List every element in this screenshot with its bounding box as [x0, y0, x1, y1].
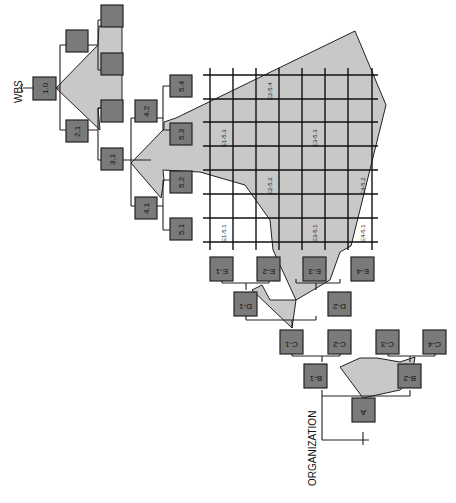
svg-text:5.1: 5.1 [177, 223, 186, 235]
svg-text:1.0: 1.0 [41, 82, 50, 94]
svg-text:D-1: D-1 [239, 302, 252, 311]
wbs-node-2-1[interactable]: 2.1 [66, 120, 88, 142]
svg-text:E-1: E-1 [215, 267, 228, 276]
org-node-e-2[interactable]: E-2 [257, 257, 280, 281]
svg-text:E-2: E-2 [262, 267, 275, 276]
svg-text:D-2: D-2 [333, 302, 346, 311]
wbs-organization-matrix-diagram: WBS 1.0 2.1 3.1 4.2 4.1 5.4 5.3 [0, 0, 456, 503]
wbs-node-5-4[interactable]: 5.4 [170, 75, 192, 97]
svg-text:2.1: 2.1 [73, 125, 82, 137]
svg-text:A: A [360, 408, 366, 417]
organization-label: ORGANIZATION [307, 411, 318, 486]
svg-text:5.4: 5.4 [177, 80, 186, 92]
org-node-b-1[interactable]: B-1 [304, 364, 327, 388]
wbs-node-5-2[interactable]: 5.2 [170, 171, 192, 193]
wbs-node-4-2[interactable]: 4.2 [135, 100, 157, 122]
matrix-cell-e2-5-2: E2-5.2 [267, 177, 273, 195]
wbs-node-2-2[interactable] [66, 30, 88, 52]
svg-text:4.2: 4.2 [142, 105, 151, 117]
matrix-cell-e2-5-4: E2-5.4 [267, 82, 273, 100]
svg-text:4.1: 4.1 [142, 202, 151, 214]
svg-text:C-4: C-4 [428, 340, 441, 349]
svg-text:C-1: C-1 [285, 340, 298, 349]
org-node-d-2[interactable]: D-2 [328, 292, 351, 316]
diagram-svg: WBS 1.0 2.1 3.1 4.2 4.1 5.4 5.3 [0, 0, 456, 503]
wbs-node-3-3[interactable] [101, 53, 123, 75]
matrix-cell-e1-5-3: E1-5.3 [221, 129, 227, 147]
wbs-node-3-4[interactable] [101, 5, 123, 27]
wbs-node-3-1[interactable]: 3.1 [101, 148, 123, 170]
wbs-node-4-1[interactable]: 4.1 [135, 197, 157, 219]
org-node-e-1[interactable]: E-1 [210, 257, 233, 281]
matrix-cell-e3-5-3: E3-5.3 [312, 129, 318, 147]
org-node-b-2[interactable]: B-2 [398, 364, 421, 388]
org-node-e-3[interactable]: E-3 [303, 257, 326, 281]
org-node-d-1[interactable]: D-1 [234, 292, 257, 316]
matrix-cell-e4-5-2: E4-5.2 [360, 177, 366, 195]
matrix-cell-e1-5-1: E1-5.1 [221, 224, 227, 242]
wbs-node-3-2[interactable] [101, 100, 123, 122]
svg-text:B-1: B-1 [309, 374, 322, 383]
org-node-c-2[interactable]: C-2 [328, 330, 351, 354]
svg-text:B-2: B-2 [403, 374, 416, 383]
matrix-cell-e3-5-1: E3-5.1 [312, 224, 318, 242]
wbs-node-1-0[interactable]: 1.0 [33, 77, 56, 100]
org-node-c-1[interactable]: C-1 [280, 330, 303, 354]
svg-text:3.1: 3.1 [108, 153, 117, 165]
org-node-c-3[interactable]: C-3 [376, 330, 399, 354]
wbs-node-5-1[interactable]: 5.1 [170, 218, 192, 240]
org-c1-arrow-shade [252, 285, 296, 328]
svg-text:5.2: 5.2 [177, 176, 186, 188]
svg-text:E-4: E-4 [356, 267, 369, 276]
svg-text:C-3: C-3 [381, 340, 394, 349]
org-node-c-4[interactable]: C-4 [423, 330, 446, 354]
svg-text:E-3: E-3 [308, 267, 321, 276]
svg-text:C-2: C-2 [333, 340, 346, 349]
svg-text:5.3: 5.3 [177, 128, 186, 140]
org-node-a[interactable]: A [352, 398, 375, 422]
wbs-node-5-3[interactable]: 5.3 [170, 123, 192, 145]
matrix-cell-e4-5-1: E4-5.1 [360, 224, 366, 242]
org-node-e-4[interactable]: E-4 [351, 257, 374, 281]
